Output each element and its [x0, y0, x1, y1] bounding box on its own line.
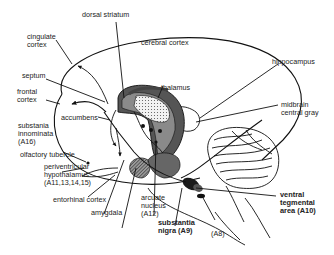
label-olfactory-tubercle: olfactory tubercle — [20, 150, 75, 159]
label-a8: (A8) — [211, 229, 225, 238]
label-arcuate-3: (A12) — [141, 209, 159, 218]
striatum — [118, 85, 184, 164]
label-frontal-cortex-2: cortex — [17, 95, 37, 104]
label-cerebral-cortex: cerebral cortex — [141, 38, 189, 47]
label-thalamus: thalamus — [161, 83, 191, 92]
label-substantia-innominata-3: (A16) — [18, 137, 36, 146]
label-vta-3: area (A10) — [280, 206, 316, 215]
substantia-nigra — [181, 175, 205, 198]
label-cingulate-cortex-2: cortex — [27, 40, 47, 49]
label-dorsal-striatum: dorsal striatum — [82, 10, 129, 19]
label-entorhinal-cortex: entorhinal cortex — [53, 195, 107, 204]
brainstem-outline — [148, 188, 270, 245]
brain-diagram: dorsal striatum cingulate cortex cerebra… — [0, 0, 334, 255]
label-accumbens: accumbens — [61, 113, 98, 122]
amygdala-region — [130, 158, 150, 178]
label-septum: septum — [22, 71, 46, 80]
label-hippocampus: hippocampus — [272, 57, 315, 66]
cerebellum — [208, 127, 279, 222]
label-periventricular-3: (A11,13,14,15) — [44, 178, 91, 187]
label-substantia-nigra-2: nigra (A9) — [158, 226, 193, 235]
label-amygdala: amygdala — [91, 208, 122, 217]
label-midbrain-central-gray-2: central gray — [281, 108, 319, 117]
